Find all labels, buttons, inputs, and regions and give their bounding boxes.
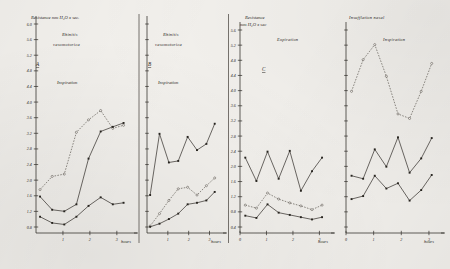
- series-line: [245, 151, 322, 191]
- y-tick-label: 4.8: [231, 58, 236, 63]
- data-point-marker: [149, 194, 151, 196]
- data-point-marker: [255, 207, 257, 209]
- data-point-marker: [187, 186, 189, 188]
- data-point-marker: [168, 162, 170, 164]
- y-tick-label: 4.4: [231, 73, 236, 78]
- data-point-marker: [75, 203, 77, 205]
- x-tick-label: 1: [373, 237, 375, 242]
- data-point-marker: [88, 158, 90, 160]
- data-point-marker: [289, 214, 291, 216]
- y-tick-label: 5.2: [27, 53, 32, 58]
- data-point-marker: [196, 202, 198, 204]
- panel-b-phase-label: Inspiration: [157, 80, 179, 85]
- x-tick-label: 1: [167, 237, 169, 242]
- data-point-marker: [244, 204, 246, 206]
- data-point-marker: [168, 199, 170, 201]
- panel-a-plot-area: [34, 16, 138, 235]
- data-point-marker: [266, 192, 268, 194]
- data-point-marker: [63, 173, 65, 175]
- panel-b-group-title-line2: vasomotorica: [155, 42, 182, 47]
- series-line: [352, 45, 432, 119]
- data-point-marker: [397, 113, 399, 115]
- data-point-marker: [374, 44, 376, 46]
- data-point-marker: [397, 182, 399, 184]
- data-point-marker: [300, 216, 302, 218]
- series-line: [40, 111, 124, 190]
- y-tick-label: 3.2: [231, 118, 236, 123]
- data-point-marker: [196, 149, 198, 151]
- panel-c: Resistance mm H₂O x sec Expiration C 5.6…: [231, 15, 335, 244]
- y-tick-label: 5.6: [231, 28, 237, 33]
- data-point-marker: [51, 222, 53, 224]
- x-tick-label: 2: [292, 237, 294, 242]
- data-point-marker: [321, 157, 323, 159]
- data-point-marker: [205, 143, 207, 145]
- y-tick-label: 3.2: [27, 131, 32, 136]
- data-point-marker: [123, 122, 125, 124]
- y-tick-label: 2.0: [27, 178, 32, 183]
- data-point-marker: [39, 216, 41, 218]
- data-point-marker: [321, 216, 323, 218]
- data-point-marker: [267, 203, 269, 205]
- x-tick-label: 3: [116, 237, 118, 242]
- x-tick-label: 2: [89, 237, 91, 242]
- panel-c-plot-area: [238, 22, 335, 235]
- panel-d: Insufflation nasal Inspiration 0123 hour…: [344, 15, 445, 244]
- data-point-marker: [100, 131, 102, 133]
- data-point-marker: [311, 209, 313, 211]
- data-point-marker: [149, 226, 151, 228]
- y-tick-label: 2.0: [231, 164, 236, 169]
- panel-c-y-tick-labels: 5.65.24.84.44.03.63.22.82.42.01.61.20.80…: [231, 28, 237, 230]
- data-point-marker: [420, 189, 422, 191]
- data-point-marker: [374, 148, 376, 150]
- panel-c-y-axis-title-line2: mm H₂O x sec: [240, 22, 266, 27]
- data-point-marker: [112, 126, 114, 128]
- y-tick-label: 2.8: [231, 134, 236, 139]
- data-point-marker: [385, 75, 387, 77]
- panel-d-plot-area: [344, 22, 445, 235]
- panel-c-y-axis-title-line1: Resistance: [244, 15, 265, 20]
- data-point-marker: [112, 203, 114, 205]
- panel-a-x-axis-label: hours: [121, 239, 131, 244]
- data-point-marker: [158, 213, 160, 215]
- data-point-marker: [278, 198, 280, 200]
- data-point-marker: [100, 196, 102, 198]
- y-tick-label: 2.4: [231, 149, 236, 154]
- data-point-marker: [374, 175, 376, 177]
- data-point-marker: [214, 177, 216, 179]
- series-line: [150, 178, 215, 226]
- series-line: [40, 197, 124, 224]
- data-point-marker: [289, 202, 291, 204]
- data-point-marker: [278, 212, 280, 214]
- data-point-marker: [351, 175, 353, 177]
- data-point-marker: [159, 223, 161, 225]
- x-tick-label: 0: [345, 237, 347, 242]
- panel-d-x-axis-label: hours: [424, 239, 434, 244]
- y-tick-label: 4.0: [231, 88, 236, 93]
- x-tick-label: 1: [62, 237, 64, 242]
- y-tick-label: 1.2: [27, 209, 32, 214]
- data-point-marker: [255, 217, 257, 219]
- panel-c-letter: C: [262, 66, 266, 72]
- data-point-marker: [431, 137, 433, 139]
- data-point-marker: [420, 157, 422, 159]
- data-point-marker: [159, 133, 161, 135]
- data-point-marker: [88, 205, 90, 207]
- y-tick-label: 1.6: [231, 179, 237, 184]
- data-point-marker: [267, 151, 269, 153]
- data-point-marker: [177, 188, 179, 190]
- y-tick-label: 5.2: [231, 43, 236, 48]
- data-point-marker: [409, 200, 411, 202]
- data-point-marker: [431, 174, 433, 176]
- y-tick-label: 5.6: [27, 37, 33, 42]
- panel-c-phase-title: Expiration: [276, 37, 299, 42]
- y-tick-label: 2.4: [27, 162, 32, 167]
- panel-a-group-title-line1: Rhinitis: [61, 32, 78, 37]
- data-point-marker: [63, 224, 65, 226]
- data-point-marker: [385, 166, 387, 168]
- data-point-marker: [409, 117, 411, 119]
- figure-four-panel-resistance-chart: Resistance mm H₂O x sec. Rhinitis vasomo…: [0, 0, 450, 269]
- panel-b-group-title-line1: Rhinitis: [162, 32, 179, 37]
- data-point-marker: [362, 195, 364, 197]
- data-point-marker: [87, 119, 89, 121]
